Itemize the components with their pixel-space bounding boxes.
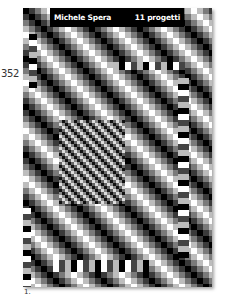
op-art-pattern <box>23 8 212 287</box>
poster-image: Michele Spera 11 progetti <box>23 8 212 287</box>
poster-title: 11 progetti <box>135 13 180 22</box>
page-number: 352 <box>1 68 19 79</box>
poster-author: Michele Spera <box>54 13 111 22</box>
figure-caption: 1. <box>24 288 31 296</box>
poster-banner: Michele Spera 11 progetti <box>50 8 184 27</box>
